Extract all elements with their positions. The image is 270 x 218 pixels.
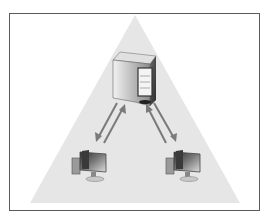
network-triangle — [30, 15, 240, 203]
network-diagram — [0, 0, 270, 218]
server-icon — [113, 52, 156, 106]
